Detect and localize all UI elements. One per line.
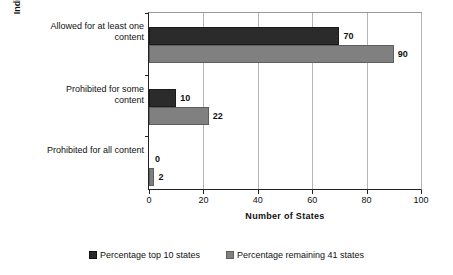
y-axis-category-label: Prohibited for some content	[36, 84, 144, 106]
x-axis-tick-label: 80	[352, 195, 382, 205]
x-axis-tick	[367, 190, 368, 194]
bar-value-label: 22	[213, 107, 223, 125]
x-axis-tick	[312, 190, 313, 194]
legend-swatch-icon	[89, 251, 97, 259]
legend-label: Percentage remaining 41 states	[237, 250, 364, 260]
bar	[149, 45, 394, 63]
x-axis-tick-label: 60	[297, 195, 327, 205]
y-axis-category-label: Prohibited for all content	[36, 145, 144, 156]
x-axis-title: Number of States	[148, 211, 422, 221]
bar	[149, 27, 339, 45]
bar	[149, 168, 154, 186]
bar-value-label: 70	[343, 27, 353, 45]
bar-value-label: 90	[398, 45, 408, 63]
bar	[149, 89, 176, 107]
legend-item-series-1: Percentage top 10 states	[89, 250, 200, 260]
chart-legend: Percentage top 10 states Percentage rema…	[0, 250, 453, 260]
gridline	[421, 13, 422, 189]
legend-swatch-icon	[226, 251, 234, 259]
x-axis-tick-label: 100	[406, 195, 436, 205]
x-axis-tick-label: 0	[134, 195, 164, 205]
y-axis-tick	[145, 75, 149, 76]
legend-item-series-2: Percentage remaining 41 states	[226, 250, 364, 260]
x-axis-tick-label: 40	[243, 195, 273, 205]
bar-value-label: 0	[155, 150, 160, 168]
plot-area: 7090102202	[148, 12, 422, 190]
x-axis-tick	[421, 190, 422, 194]
x-axis-tick	[258, 190, 259, 194]
legend-label: Percentage top 10 states	[100, 250, 200, 260]
y-axis-tick	[145, 13, 149, 14]
x-axis-tick	[203, 190, 204, 194]
x-axis-tick-label: 20	[188, 195, 218, 205]
gridline	[367, 13, 368, 189]
y-axis-title: Indirect Linguistic Support Accommodatio…	[6, 0, 40, 46]
y-axis-tick	[145, 136, 149, 137]
bar-chart: Indirect Linguistic Support Accommodatio…	[0, 0, 453, 275]
bar	[149, 107, 209, 125]
x-axis-tick	[149, 190, 150, 194]
bar-value-label: 10	[180, 89, 190, 107]
bar-value-label: 2	[158, 168, 163, 186]
y-axis-category-label: Allowed for at least one content	[36, 21, 144, 43]
